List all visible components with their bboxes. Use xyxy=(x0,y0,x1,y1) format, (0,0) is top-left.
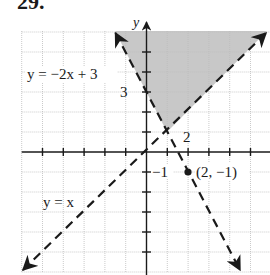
y-axis-label: y xyxy=(131,15,140,30)
problem-number: 29. xyxy=(17,0,45,14)
test-point xyxy=(184,168,191,175)
shaded-solution-region xyxy=(115,31,267,132)
line1-label: y = −2x + 3 xyxy=(27,66,97,82)
point-label: (2, −1) xyxy=(196,164,237,181)
graph-figure: 29. xyxy=(0,0,270,275)
tick-label-y-neg1: −1 xyxy=(152,164,168,180)
line2-label: y = x xyxy=(43,194,74,210)
tick-label-x2: 2 xyxy=(183,129,191,145)
tick-label-y3: 3 xyxy=(120,84,128,100)
